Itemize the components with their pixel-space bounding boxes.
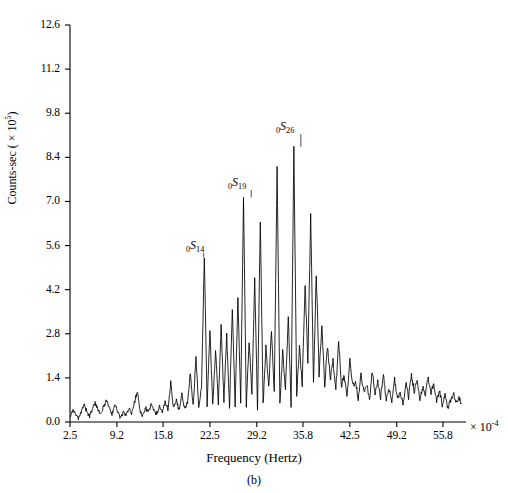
y-axis-title-text: Counts-sec ( × 10 [5, 120, 19, 205]
x-axis-ticks [70, 422, 443, 427]
mode-0S26: 0S26 [276, 119, 294, 135]
x-tick-label: 29.2 [237, 430, 277, 441]
mode-0S19-order: 19 [238, 182, 246, 191]
y-tick-label: 8.4 [18, 151, 60, 162]
annotation-leader-lines [204, 134, 301, 257]
y-tick-label: 7.0 [18, 195, 60, 206]
spectrum-trace [70, 146, 461, 420]
x-axis-multiplier-exponent: -4 [492, 419, 499, 428]
x-tick-label: 49.2 [377, 430, 417, 441]
x-tick-label: 2.5 [50, 430, 90, 441]
y-axis-title: Counts-sec ( × 105) [4, 58, 20, 258]
mode-0S26-order: 26 [286, 126, 294, 135]
y-tick-label: 5.6 [18, 240, 60, 251]
y-tick-label: 11.2 [18, 63, 60, 74]
spectrum-figure: 0.01.42.84.25.67.08.49.811.212.6 2.59.21… [0, 0, 508, 493]
mode-0S14: 0S14 [186, 238, 204, 254]
y-axis-title-exponent: 5 [4, 115, 13, 119]
y-tick-label: 9.8 [18, 107, 60, 118]
x-tick-label: 55.8 [423, 430, 463, 441]
y-tick-label: 2.8 [18, 328, 60, 339]
x-tick-label: 15.8 [143, 430, 183, 441]
x-tick-label: 42.5 [330, 430, 370, 441]
x-tick-label: 22.5 [190, 430, 230, 441]
y-tick-label: 12.6 [18, 19, 60, 30]
x-tick-label: 9.2 [97, 430, 137, 441]
mode-0S19: 0S19 [228, 175, 246, 191]
y-tick-label: 0.0 [18, 416, 60, 427]
x-axis-title: Frequency (Hertz) [0, 450, 508, 466]
x-tick-label: 35.8 [283, 430, 323, 441]
mode-0S14-order: 14 [196, 245, 204, 254]
y-axis-ticks [65, 25, 70, 422]
spectrum-svg [0, 0, 508, 493]
y-tick-label: 4.2 [18, 284, 60, 295]
x-axis-multiplier: × 10-4 [470, 419, 499, 435]
figure-caption: (b) [0, 473, 508, 488]
axis-lines [70, 25, 466, 422]
x-axis-multiplier-base: × 10 [470, 420, 492, 434]
y-tick-label: 1.4 [18, 372, 60, 383]
y-axis-title-paren: ) [5, 111, 19, 115]
